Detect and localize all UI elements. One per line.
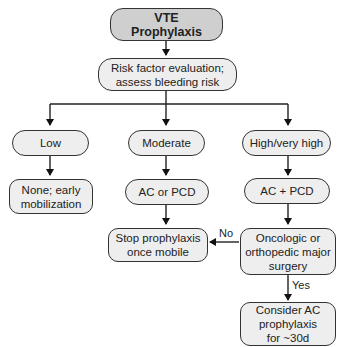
risk-high-node: High/very high: [242, 130, 331, 156]
risk-low-text: Low: [40, 136, 61, 150]
risk-moderate-text: Moderate: [142, 136, 191, 150]
high-action-node: AC + PCD: [244, 178, 330, 204]
title-text: VTE Prophylaxis: [131, 11, 202, 39]
vte-prophylaxis-title-node: VTE Prophylaxis: [110, 8, 223, 41]
edge-label-no: No: [219, 227, 233, 239]
extended-text: Consider AC prophylaxis for ~30d: [256, 303, 321, 345]
decision-text: Oncologic or orthopedic major surgery: [245, 231, 331, 273]
high-action-text: AC + PCD: [260, 184, 313, 198]
moderate-action-node: AC or PCD: [125, 179, 209, 205]
risk-low-node: Low: [12, 130, 89, 156]
evaluation-text: Risk factor evaluation; assess bleeding …: [111, 61, 224, 89]
extended-prophylaxis-node: Consider AC prophylaxis for ~30d: [240, 302, 336, 346]
risk-evaluation-node: Risk factor evaluation; assess bleeding …: [98, 58, 237, 91]
moderate-action-text: AC or PCD: [139, 185, 196, 199]
stop-text: Stop prophylaxis once mobile: [115, 231, 200, 259]
stop-prophylaxis-node: Stop prophylaxis once mobile: [108, 228, 208, 262]
low-action-node: None; early mobilization: [9, 179, 93, 214]
connector-lines: [0, 0, 344, 347]
risk-high-text: High/very high: [250, 136, 324, 150]
risk-moderate-node: Moderate: [128, 130, 205, 156]
low-action-text: None; early mobilization: [21, 183, 82, 211]
edge-label-yes: Yes: [292, 279, 310, 291]
surgery-decision-node: Oncologic or orthopedic major surgery: [240, 228, 336, 275]
